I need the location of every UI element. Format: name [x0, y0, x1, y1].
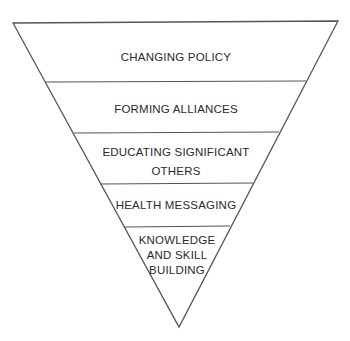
layer-label-line: KNOWLEDGE [139, 233, 216, 248]
layer-changing-policy: CHANGING POLICY [121, 49, 231, 65]
divider-3 [100, 183, 253, 184]
layer-forming-alliances: FORMING ALLIANCES [114, 101, 238, 117]
layer-label-line: CHANGING POLICY [121, 49, 231, 65]
layer-label-line: FORMING ALLIANCES [114, 101, 238, 117]
layer-label-line: AND SKILL [139, 248, 216, 263]
layer-knowledge-skill-building: KNOWLEDGE AND SKILL BUILDING [139, 233, 216, 278]
layer-label-line: BUILDING [139, 263, 216, 278]
layer-label-line: EDUCATING SIGNIFICANT [102, 143, 249, 162]
layer-health-messaging: HEALTH MESSAGING [116, 197, 237, 213]
layer-educating-significant-others: EDUCATING SIGNIFICANT OTHERS [102, 143, 249, 181]
divider-2 [74, 132, 279, 133]
layer-label-line: OTHERS [102, 162, 249, 181]
divider-1 [46, 81, 306, 82]
divider-4 [124, 226, 230, 227]
layer-label-line: HEALTH MESSAGING [116, 197, 237, 213]
